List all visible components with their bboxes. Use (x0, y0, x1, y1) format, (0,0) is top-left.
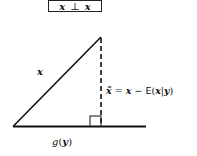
equals-sign: = (115, 85, 123, 96)
title-left-x: x (59, 1, 65, 12)
hypotenuse-label: x (37, 67, 43, 77)
residual-equation-label: x̃ = x − E(x|y) (106, 86, 173, 96)
projection-diagram (0, 0, 197, 156)
hypotenuse-line (13, 37, 101, 127)
residual-symbol: x̃ (106, 85, 112, 96)
minus-sign: − (134, 85, 142, 96)
orthogonality-title-box: x ⊥ x (48, 0, 102, 12)
right-angle-marker (90, 116, 101, 127)
title-right-x: x (85, 1, 91, 12)
residual-x: x (126, 85, 132, 96)
baseline-label: g(y) (52, 137, 72, 147)
close-paren: ) (68, 136, 72, 147)
perpendicular-symbol: ⊥ (70, 1, 79, 12)
close-paren: ) (170, 85, 174, 96)
